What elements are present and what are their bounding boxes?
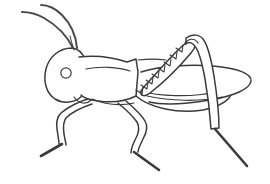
- grasshopper-illustration: [0, 0, 270, 184]
- pronotum: [79, 56, 138, 102]
- drawing-canvas: Grasshopper line drawing grasshopper bla…: [0, 0, 270, 184]
- eye: [61, 68, 71, 78]
